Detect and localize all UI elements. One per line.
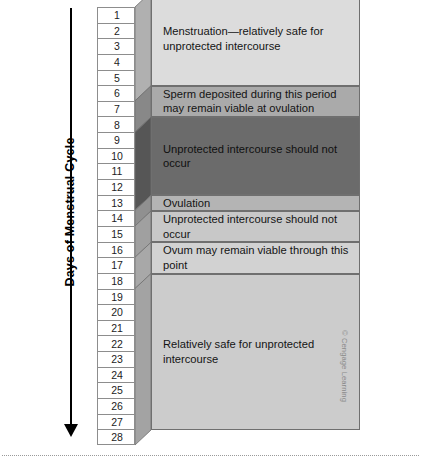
band-5: Unprotected intercourse should not occur: [151, 211, 360, 242]
copyright-credit: © Cengage Learning: [340, 330, 349, 402]
day-cell-27: 27: [98, 415, 136, 431]
band-4: Ovulation: [151, 195, 360, 211]
day-cell-24: 24: [98, 368, 136, 384]
bottom-divider: [2, 455, 419, 456]
band-label-7: Relatively safe for unprotected intercou…: [152, 337, 359, 366]
band-label-6: Ovum may remain viable through this poin…: [152, 243, 359, 272]
y-axis: Days of Menstrual Cycle: [38, 0, 90, 455]
band-side-7: [135, 274, 151, 445]
day-cell-5: 5: [98, 71, 136, 87]
day-cell-17: 17: [98, 258, 136, 274]
day-cell-7: 7: [98, 102, 136, 118]
band-1: Menstruation—relatively safe for unprote…: [151, 0, 360, 86]
day-cell-21: 21: [98, 321, 136, 337]
day-cell-12: 12: [98, 180, 136, 196]
band-label-4: Ovulation: [152, 196, 210, 211]
day-cell-1: 1: [98, 8, 136, 24]
day-cell-22: 22: [98, 337, 136, 353]
axis-title: Days of Menstrual Cycle: [63, 72, 77, 352]
day-cell-16: 16: [98, 243, 136, 259]
band-2: Sperm deposited during this period may r…: [151, 86, 360, 117]
day-cell-8: 8: [98, 118, 136, 134]
day-cell-20: 20: [98, 305, 136, 321]
day-cell-25: 25: [98, 383, 136, 399]
band-label-3: Unprotected intercourse should not occur: [152, 142, 359, 171]
day-cell-6: 6: [98, 86, 136, 102]
down-arrow-icon: [64, 424, 78, 437]
band-label-5: Unprotected intercourse should not occur: [152, 212, 359, 241]
band-3: Unprotected intercourse should not occur: [151, 117, 360, 195]
three-d-side-face: [135, 0, 151, 467]
band-label-2: Sperm deposited during this period may r…: [152, 87, 337, 116]
band-7: Relatively safe for unprotected intercou…: [151, 274, 360, 430]
band-label-1: Menstruation—relatively safe for unprote…: [152, 24, 323, 53]
day-cell-26: 26: [98, 399, 136, 415]
day-cell-9: 9: [98, 133, 136, 149]
day-cell-23: 23: [98, 352, 136, 368]
day-cell-18: 18: [98, 274, 136, 290]
day-cell-10: 10: [98, 149, 136, 165]
day-cell-11: 11: [98, 164, 136, 180]
day-cell-4: 4: [98, 55, 136, 71]
day-cell-19: 19: [98, 290, 136, 306]
day-cell-15: 15: [98, 227, 136, 243]
day-cell-2: 2: [98, 24, 136, 40]
day-cell-14: 14: [98, 211, 136, 227]
band-side-1: [135, 0, 151, 101]
day-cell-3: 3: [98, 39, 136, 55]
day-cell-13: 13: [98, 196, 136, 212]
menstrual-cycle-figure: Days of Menstrual Cycle 1234567891011121…: [0, 0, 421, 467]
band-side-3: [135, 117, 151, 210]
day-cell-28: 28: [98, 430, 136, 446]
band-6: Ovum may remain viable through this poin…: [151, 242, 360, 273]
day-number-column: 1234567891011121314151617181920212223242…: [97, 7, 135, 445]
